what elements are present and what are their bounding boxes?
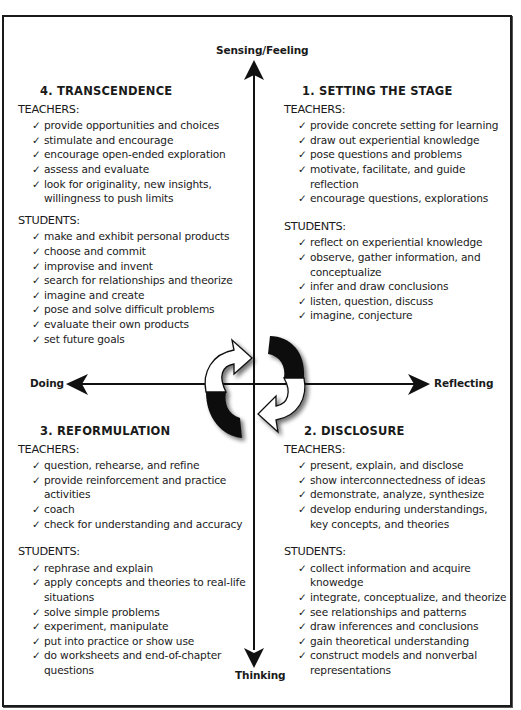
- quadrant-transcendence: 4. TRANSCENDENCE TEACHERS: ✓provide oppo…: [18, 84, 248, 346]
- list-item: ✓present, explain, and disclose: [298, 458, 514, 473]
- checkmark-icon: ✓: [298, 133, 307, 148]
- checkmark-icon: ✓: [298, 619, 307, 634]
- teachers-label: TEACHERS:: [284, 443, 514, 458]
- list-item: ✓reflect on experiential knowledge: [298, 235, 514, 250]
- quadrant-title: 1. SETTING THE STAGE: [284, 84, 514, 99]
- checkmark-icon: ✓: [298, 162, 307, 177]
- quadrant-setting-the-stage: 1. SETTING THE STAGE TEACHERS: ✓provide …: [284, 84, 514, 323]
- list-item: ✓encourage questions, explorations: [298, 191, 514, 206]
- list-item: ✓check for understanding and accuracy: [32, 517, 248, 532]
- list-item: ✓do worksheets and end-of-chapter questi…: [32, 648, 248, 677]
- list-item: ✓pose and solve difficult problems: [32, 302, 248, 317]
- list-item: ✓search for relationships and theorize: [32, 273, 248, 288]
- list-item: ✓draw out experiential knowledge: [298, 133, 514, 148]
- axis-label-top: Sensing/Feeling: [216, 44, 309, 56]
- checkmark-icon: ✓: [32, 648, 41, 663]
- students-label: STUDENTS:: [18, 545, 248, 560]
- checkmark-icon: ✓: [32, 634, 41, 649]
- list-item: ✓motivate, facilitate, and guide reflect…: [298, 162, 514, 191]
- list-item: ✓provide reinforcement and practice acti…: [32, 473, 248, 502]
- list-item: ✓make and exhibit personal products: [32, 229, 248, 244]
- list-item: ✓draw inferences and conclusions: [298, 619, 514, 634]
- teachers-list: ✓question, rehearse, and refine ✓provide…: [18, 458, 248, 531]
- list-item: ✓apply concepts and theories to real-lif…: [32, 575, 248, 604]
- list-item: ✓question, rehearse, and refine: [32, 458, 248, 473]
- checkmark-icon: ✓: [32, 619, 41, 634]
- axis-label-left: Doing: [30, 377, 64, 389]
- list-item: ✓infer and draw conclusions: [298, 279, 514, 294]
- checkmark-icon: ✓: [298, 308, 307, 323]
- checkmark-icon: ✓: [32, 473, 41, 488]
- checkmark-icon: ✓: [32, 118, 41, 133]
- checkmark-icon: ✓: [32, 517, 41, 532]
- list-item: ✓rephrase and explain: [32, 561, 248, 576]
- students-list: ✓collect information and acquire knowedg…: [284, 561, 514, 678]
- checkmark-icon: ✓: [32, 502, 41, 517]
- list-item: ✓imagine and create: [32, 288, 248, 303]
- list-item: ✓solve simple problems: [32, 605, 248, 620]
- list-item: ✓evaluate their own products: [32, 317, 248, 332]
- checkmark-icon: ✓: [298, 561, 307, 576]
- list-item: ✓see relationships and patterns: [298, 605, 514, 620]
- list-item: ✓gain theoretical understanding: [298, 634, 514, 649]
- checkmark-icon: ✓: [32, 317, 41, 332]
- checkmark-icon: ✓: [32, 575, 41, 590]
- checkmark-icon: ✓: [32, 605, 41, 620]
- list-item: ✓pose questions and problems: [298, 147, 514, 162]
- checkmark-icon: ✓: [32, 229, 41, 244]
- checkmark-icon: ✓: [298, 605, 307, 620]
- checkmark-icon: ✓: [298, 648, 307, 663]
- checkmark-icon: ✓: [32, 259, 41, 274]
- list-item: ✓collect information and acquire knowedg…: [298, 561, 514, 590]
- checkmark-icon: ✓: [32, 273, 41, 288]
- list-item: ✓put into practice or show use: [32, 634, 248, 649]
- checkmark-icon: ✓: [298, 191, 307, 206]
- checkmark-icon: ✓: [298, 458, 307, 473]
- checkmark-icon: ✓: [32, 244, 41, 259]
- students-label: STUDENTS:: [284, 545, 514, 560]
- checkmark-icon: ✓: [298, 590, 307, 605]
- checkmark-icon: ✓: [32, 302, 41, 317]
- teachers-label: TEACHERS:: [284, 103, 514, 118]
- checkmark-icon: ✓: [298, 250, 307, 265]
- list-item: ✓construct models and nonverbal represen…: [298, 648, 514, 677]
- list-item: ✓choose and commit: [32, 244, 248, 259]
- teachers-list: ✓present, explain, and disclose ✓show in…: [284, 458, 514, 531]
- list-item: ✓listen, question, discuss: [298, 294, 514, 309]
- list-item: ✓experiment, manipulate: [32, 619, 248, 634]
- checkmark-icon: ✓: [298, 634, 307, 649]
- list-item: ✓provide concrete setting for learning: [298, 118, 514, 133]
- checkmark-icon: ✓: [298, 294, 307, 309]
- students-label: STUDENTS:: [18, 214, 248, 229]
- list-item: ✓look for originality, new insights, wil…: [32, 177, 248, 206]
- checkmark-icon: ✓: [298, 147, 307, 162]
- students-list: ✓reflect on experiential knowledge ✓obse…: [284, 235, 514, 323]
- list-item: ✓coach: [32, 502, 248, 517]
- checkmark-icon: ✓: [32, 332, 41, 347]
- students-list: ✓make and exhibit personal products ✓cho…: [18, 229, 248, 346]
- checkmark-icon: ✓: [298, 279, 307, 294]
- checkmark-icon: ✓: [298, 487, 307, 502]
- checkmark-icon: ✓: [32, 458, 41, 473]
- checkmark-icon: ✓: [32, 133, 41, 148]
- list-item: ✓stimulate and encourage: [32, 133, 248, 148]
- checkmark-icon: ✓: [32, 288, 41, 303]
- list-item: ✓imagine, conjecture: [298, 308, 514, 323]
- list-item: ✓improvise and invent: [32, 259, 248, 274]
- quadrant-title: 2. DISCLOSURE: [284, 424, 514, 439]
- checkmark-icon: ✓: [298, 118, 307, 133]
- list-item: ✓encourage open-ended exploration: [32, 147, 248, 162]
- checkmark-icon: ✓: [32, 561, 41, 576]
- quadrant-title: 4. TRANSCENDENCE: [18, 84, 248, 99]
- list-item: ✓provide opportunities and choices: [32, 118, 248, 133]
- teachers-list: ✓provide opportunities and choices ✓stim…: [18, 118, 248, 206]
- list-item: ✓observe, gather information, and concep…: [298, 250, 514, 279]
- checkmark-icon: ✓: [298, 473, 307, 488]
- checkmark-icon: ✓: [298, 235, 307, 250]
- quadrant-title: 3. REFORMULATION: [18, 424, 248, 439]
- list-item: ✓show interconnectedness of ideas: [298, 473, 514, 488]
- checkmark-icon: ✓: [32, 162, 41, 177]
- quadrant-disclosure: 2. DISCLOSURE TEACHERS: ✓present, explai…: [284, 424, 514, 678]
- teachers-list: ✓provide concrete setting for learning ✓…: [284, 118, 514, 206]
- list-item: ✓demonstrate, analyze, synthesize: [298, 487, 514, 502]
